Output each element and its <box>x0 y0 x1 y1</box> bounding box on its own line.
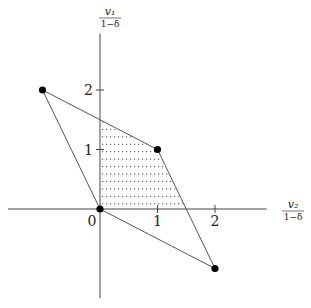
feasible-payoff-diagram: 1212 v₂ 1−δ v₁ 1−δ 0 <box>0 0 311 308</box>
y-tick-label: 1 <box>84 142 93 158</box>
vertex-points <box>39 86 219 272</box>
y-axis-label-numerator: v₁ <box>105 5 116 18</box>
y-axis-label-denominator: 1−δ <box>101 19 120 29</box>
x-tick-label: 1 <box>153 213 162 229</box>
x-tick-label: 2 <box>211 213 220 229</box>
axis-ticks: 1212 <box>84 82 219 229</box>
x-axis-label-denominator: 1−δ <box>284 212 303 222</box>
y-axis-label: v₁ 1−δ <box>99 5 121 29</box>
origin-label: 0 <box>88 213 97 229</box>
x-axis-label-numerator: v₂ <box>288 198 299 211</box>
vertex-point <box>154 146 161 153</box>
shaded-region <box>102 122 183 204</box>
vertex-point <box>96 205 103 212</box>
vertex-point <box>39 86 46 93</box>
x-axis-label: v₂ 1−δ <box>282 198 304 222</box>
vertex-point <box>211 265 218 272</box>
payoff-polygon <box>43 90 216 269</box>
y-tick-label: 2 <box>84 82 93 98</box>
